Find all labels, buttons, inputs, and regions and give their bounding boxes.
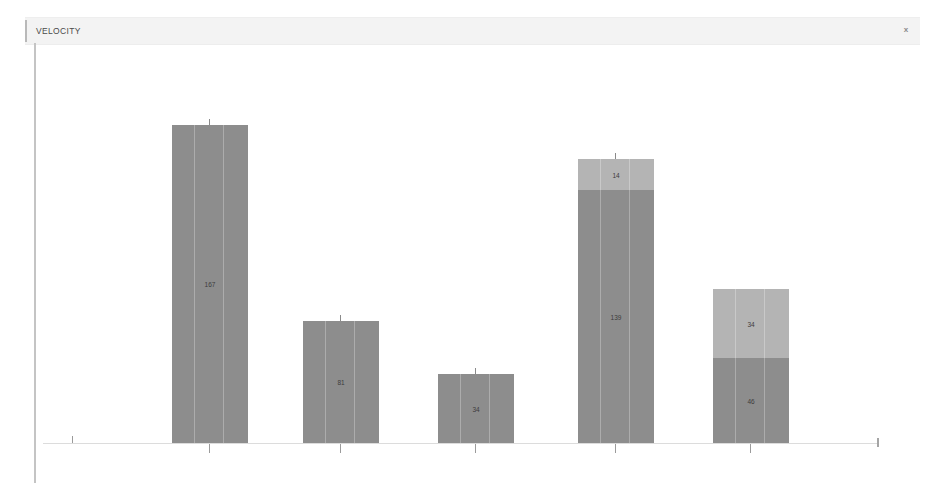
x-axis-end-tick bbox=[877, 438, 879, 447]
bar-stack: 14 139 bbox=[578, 159, 654, 443]
bar-group-sprint-2017-33[interactable]: 34 46 bbox=[713, 289, 789, 443]
y-axis-tick bbox=[72, 436, 73, 443]
bar-value-label: 46 bbox=[713, 397, 789, 404]
bar-value-label: 81 bbox=[303, 379, 379, 386]
bar-value-label: 139 bbox=[578, 313, 654, 320]
bar-axis-tick bbox=[615, 444, 616, 453]
bar-group-sprint-2017-32[interactable]: 14 139 bbox=[578, 159, 654, 443]
chart-plot-area: 167 81 bbox=[0, 43, 945, 496]
bar-value-label: 34 bbox=[438, 405, 514, 412]
bar-value-label: 167 bbox=[172, 281, 248, 288]
bar-group-sprint-2017-30[interactable]: 81 bbox=[303, 321, 379, 443]
bar-group-sprint-2017-31[interactable]: 34 bbox=[438, 374, 514, 443]
bar-stack: 34 bbox=[438, 374, 514, 443]
bar-segment-completed[interactable]: 34 bbox=[438, 374, 514, 443]
bar-group-sprint-2017-29[interactable]: 167 bbox=[172, 125, 248, 443]
bar-segment-completed[interactable]: 139 bbox=[578, 190, 654, 443]
bar-stack: 81 bbox=[303, 321, 379, 443]
bar-segment-completed[interactable]: 46 bbox=[713, 358, 789, 443]
page-title: VELOCITY bbox=[36, 26, 81, 36]
bar-axis-tick bbox=[475, 444, 476, 453]
bar-value-label: 14 bbox=[578, 171, 654, 178]
bar-segment-completed[interactable]: 81 bbox=[303, 321, 379, 443]
bar-axis-tick bbox=[340, 444, 341, 453]
bar-stack: 167 bbox=[172, 125, 248, 443]
bar-stack: 34 46 bbox=[713, 289, 789, 443]
gadget-header: VELOCITY x bbox=[25, 17, 920, 45]
bar-segment-extra[interactable]: 34 bbox=[713, 289, 789, 358]
bar-segment-extra[interactable]: 14 bbox=[578, 159, 654, 190]
bar-axis-tick bbox=[750, 444, 751, 453]
title-accent-bar bbox=[25, 20, 27, 42]
x-axis-line bbox=[43, 443, 878, 444]
bar-value-label: 34 bbox=[713, 320, 789, 327]
bar-segment-completed[interactable]: 167 bbox=[172, 125, 248, 443]
velocity-gadget: VELOCITY x 167 bbox=[0, 0, 945, 496]
close-icon[interactable]: x bbox=[900, 24, 912, 36]
y-axis-line bbox=[34, 43, 36, 483]
bar-axis-tick bbox=[209, 444, 210, 453]
